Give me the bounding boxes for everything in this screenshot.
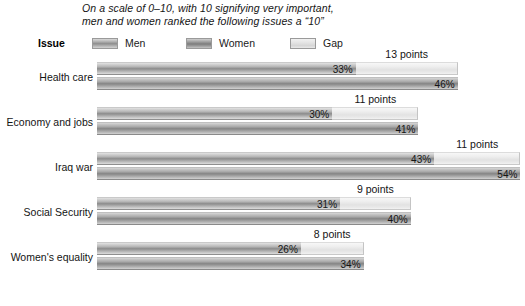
row-label-health-care: Health care — [39, 71, 93, 83]
row-label-social-security: Social Security — [24, 206, 93, 218]
bar-men: 26% — [97, 242, 301, 255]
legend-swatch-women-icon — [186, 38, 212, 49]
bar-value-men: 26% — [278, 243, 298, 256]
bar-value-women: 54% — [497, 168, 517, 181]
row-label-women-s-equality: Women's equality — [11, 251, 93, 263]
bar-women: 41% — [97, 122, 418, 135]
chart-title-line-2: men and women ranked the following issue… — [82, 15, 382, 28]
bar-men: 33% — [97, 62, 356, 75]
bar-value-women: 46% — [435, 78, 455, 91]
bar-women: 40% — [97, 212, 411, 225]
gap-annotation: 11 points — [434, 138, 520, 150]
bar-chart-plot-area: Health care33%46%13 pointsEconomy and jo… — [0, 58, 525, 306]
legend-item-gap: Gap — [290, 36, 343, 50]
bar-gap — [340, 197, 411, 210]
bar-men: 30% — [97, 107, 332, 120]
bar-group: 30%41%11 points — [97, 107, 418, 137]
bar-group: 31%40%9 points — [97, 197, 411, 227]
legend-swatch-gap-icon — [290, 38, 316, 49]
bar-gap — [356, 62, 458, 75]
gap-annotation: 9 points — [340, 183, 411, 195]
bar-value-men: 30% — [309, 108, 329, 121]
chart-row: Social Security31%40%9 points — [0, 197, 525, 229]
bar-group: 26%34%8 points — [97, 242, 364, 272]
gap-annotation: 11 points — [332, 93, 418, 105]
legend-label-men: Men — [125, 37, 145, 49]
axis-header-issue: Issue — [38, 37, 65, 49]
row-label-iraq-war: Iraq war — [55, 161, 93, 173]
legend-item-men: Men — [92, 36, 145, 50]
gap-annotation: 8 points — [301, 228, 364, 240]
bar-gap — [434, 152, 520, 165]
chart-title-line-1: On a scale of 0–10, with 10 signifying v… — [82, 2, 382, 15]
bar-group: 33%46%13 points — [97, 62, 458, 92]
legend-item-women: Women — [186, 36, 255, 50]
bar-value-men: 33% — [333, 63, 353, 76]
legend-label-women: Women — [219, 37, 255, 49]
legend-label-gap: Gap — [323, 37, 343, 49]
bar-value-men: 31% — [317, 198, 337, 211]
gap-annotation: 13 points — [356, 48, 458, 60]
bar-value-women: 40% — [388, 213, 408, 226]
row-label-economy-and-jobs: Economy and jobs — [7, 116, 93, 128]
bar-men: 43% — [97, 152, 434, 165]
bar-value-men: 43% — [411, 153, 431, 166]
bar-group: 43%54%11 points — [97, 152, 520, 182]
legend-swatch-men-icon — [92, 38, 118, 49]
bar-women: 34% — [97, 257, 364, 270]
bar-women: 54% — [97, 167, 520, 180]
bar-gap — [301, 242, 364, 255]
chart-row: Women's equality26%34%8 points — [0, 242, 525, 274]
chart-row: Iraq war43%54%11 points — [0, 152, 525, 184]
chart-row: Economy and jobs30%41%11 points — [0, 107, 525, 139]
bar-gap — [332, 107, 418, 120]
bar-value-women: 34% — [341, 258, 361, 271]
bar-men: 31% — [97, 197, 340, 210]
bar-women: 46% — [97, 77, 458, 90]
chart-row: Health care33%46%13 points — [0, 62, 525, 94]
chart-title: On a scale of 0–10, with 10 signifying v… — [82, 2, 382, 27]
bar-value-women: 41% — [395, 123, 415, 136]
